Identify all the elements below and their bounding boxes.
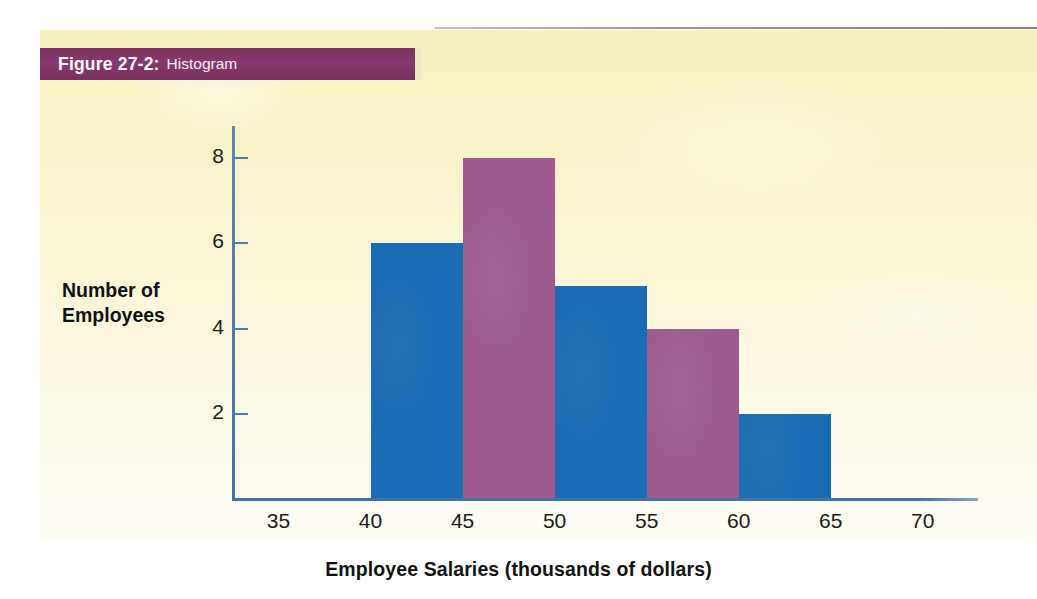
figure-panel	[40, 30, 1037, 542]
figure-title-bar: Figure 27-2: Histogram	[40, 48, 415, 80]
x-axis-title: Employee Salaries (thousands of dollars)	[0, 558, 1037, 581]
figure-caption: Histogram	[167, 55, 238, 73]
page-scan-edge	[435, 27, 1037, 29]
figure-title-bar-tail	[415, 48, 421, 80]
scanned-page: Figure 27-2: Histogram 2468 354045505560…	[0, 0, 1037, 599]
figure-number-label: Figure 27-2:	[58, 54, 160, 75]
